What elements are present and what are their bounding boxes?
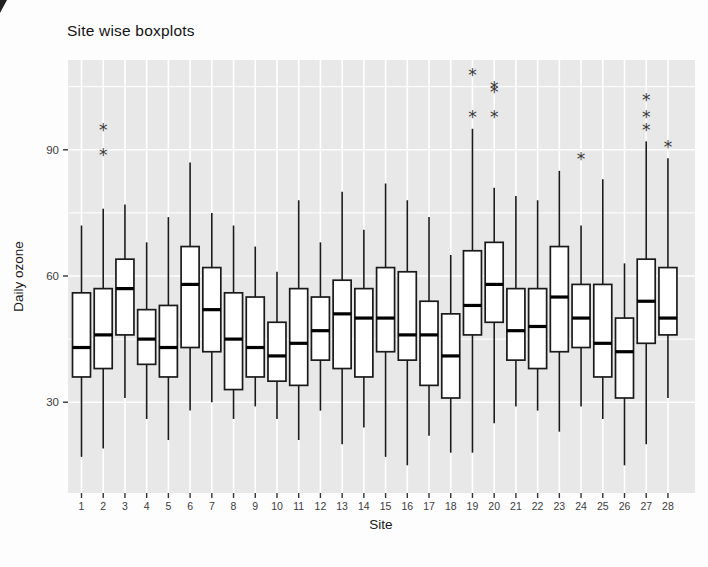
box-site-22 [529, 289, 547, 369]
box-site-23 [550, 247, 568, 352]
box-site-12 [311, 297, 329, 360]
x-tick-label-site-23: 23 [553, 500, 565, 512]
x-tick-label-site-21: 21 [510, 500, 522, 512]
box-site-17 [420, 301, 438, 385]
outlier-asterisk-site-28-0: * [664, 137, 673, 157]
box-site-24 [572, 284, 590, 347]
outlier-asterisk-site-2-0: * [99, 145, 108, 165]
x-tick-label-site-22: 22 [532, 500, 544, 512]
x-tick-label-site-11: 11 [293, 500, 304, 512]
y-tick-label-90: 90 [46, 144, 59, 156]
x-tick-label-site-1: 1 [79, 500, 85, 512]
box-site-3 [116, 259, 134, 335]
box-site-28 [659, 268, 677, 335]
box-site-5 [159, 305, 177, 377]
box-site-8 [225, 293, 243, 390]
outlier-asterisk-site-27-2: * [642, 90, 651, 110]
box-site-1 [73, 293, 91, 377]
x-tick-label-site-2: 2 [100, 500, 106, 512]
x-tick-label-site-28: 28 [662, 500, 674, 512]
box-site-9 [246, 297, 264, 377]
outlier-asterisk-site-19-1: * [468, 65, 477, 85]
outlier-asterisk-site-19-0: * [468, 107, 477, 127]
outlier-asterisk-site-24-0: * [577, 149, 586, 169]
x-tick-label-site-12: 12 [315, 500, 327, 512]
x-tick-label-site-27: 27 [640, 500, 652, 512]
box-site-4 [138, 310, 156, 365]
x-tick-label-site-16: 16 [401, 500, 413, 512]
x-tick-label-site-5: 5 [165, 500, 171, 512]
x-tick-label-site-8: 8 [231, 500, 237, 512]
x-tick-label-site-24: 24 [575, 500, 587, 512]
x-axis-title: Site [331, 517, 431, 532]
box-site-21 [507, 289, 525, 361]
box-site-19 [463, 251, 481, 335]
box-site-11 [290, 289, 308, 386]
y-tick-label-30: 30 [46, 396, 59, 408]
x-tick-label-site-7: 7 [209, 500, 215, 512]
box-site-26 [616, 318, 634, 398]
box-site-25 [594, 284, 612, 377]
x-tick-label-site-3: 3 [122, 500, 128, 512]
box-site-16 [398, 272, 416, 360]
x-tick-label-site-20: 20 [488, 500, 500, 512]
box-site-20 [485, 242, 503, 322]
x-tick-label-site-14: 14 [358, 500, 370, 512]
x-tick-label-site-19: 19 [467, 500, 479, 512]
x-tick-label-site-4: 4 [144, 500, 150, 512]
x-tick-label-site-9: 9 [252, 500, 258, 512]
box-site-2 [94, 289, 112, 369]
box-site-15 [377, 268, 395, 352]
y-axis-title: Daily ozone [11, 222, 26, 332]
outlier-asterisk-site-20-2: * [490, 78, 499, 98]
x-tick-label-site-10: 10 [271, 500, 283, 512]
x-tick-label-site-26: 26 [619, 500, 631, 512]
x-tick-label-site-18: 18 [445, 500, 457, 512]
outlier-asterisk-site-2-1: * [99, 120, 108, 140]
x-tick-label-site-25: 25 [597, 500, 609, 512]
x-tick-label-site-15: 15 [380, 500, 392, 512]
box-site-6 [181, 247, 199, 348]
x-tick-label-site-17: 17 [423, 500, 435, 512]
boxplot-canvas: 3060901234567891011121314151617181920212… [0, 0, 708, 567]
box-site-14 [355, 289, 373, 377]
box-site-10 [268, 322, 286, 381]
outlier-asterisk-site-20-0: * [490, 107, 499, 127]
y-tick-label-60: 60 [46, 270, 59, 282]
box-site-13 [333, 280, 351, 368]
x-tick-label-site-13: 13 [336, 500, 348, 512]
x-tick-label-site-6: 6 [187, 500, 193, 512]
